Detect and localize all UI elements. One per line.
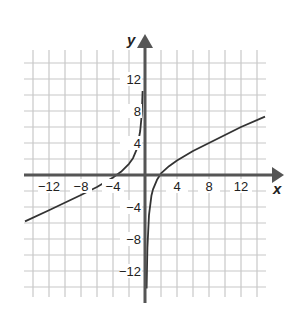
y-axis-label: y xyxy=(126,31,136,48)
x-tick-label: −8 xyxy=(74,179,89,194)
y-tick-label: −8 xyxy=(126,232,141,247)
y-tick-label: 4 xyxy=(134,136,141,151)
x-tick-label: 8 xyxy=(205,179,212,194)
y-axis-arrow-icon xyxy=(137,34,153,48)
y-tick-label: −4 xyxy=(126,200,141,215)
x-tick-label: −12 xyxy=(38,179,60,194)
x-tick-label: −4 xyxy=(106,179,121,194)
function-graph: −12−8−448121284−4−8−12 x y xyxy=(0,0,300,309)
x-tick-label: 12 xyxy=(234,179,248,194)
axes xyxy=(24,34,284,303)
x-axis-label: x xyxy=(272,180,282,197)
y-tick-label: 8 xyxy=(134,104,141,119)
y-tick-label: 12 xyxy=(127,72,141,87)
x-tick-label: 4 xyxy=(173,179,180,194)
y-tick-label: −12 xyxy=(119,264,141,279)
